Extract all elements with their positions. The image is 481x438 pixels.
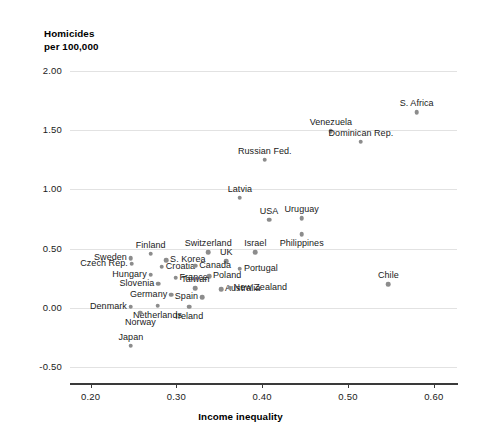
x-tick-label: 0.60: [414, 391, 454, 402]
y-tick-label: 0.00: [18, 302, 62, 313]
data-point-label: Poland: [213, 270, 241, 280]
data-point[interactable]: [267, 217, 272, 222]
data-point[interactable]: [359, 140, 364, 145]
data-point-label: Denmark: [90, 301, 127, 311]
data-point-label: Uruguay: [285, 204, 319, 214]
scatter-chart: Homicides per 100,000 S. AfricaVenezuela…: [0, 0, 481, 438]
data-point[interactable]: [206, 250, 211, 255]
data-point[interactable]: [155, 303, 160, 308]
data-point-label: Finland: [136, 240, 166, 250]
data-point[interactable]: [129, 304, 134, 309]
data-point[interactable]: [227, 285, 232, 290]
plot-area: S. AfricaVenezuelaDominican Rep.Russian …: [70, 35, 457, 379]
data-point[interactable]: [263, 157, 268, 162]
y-tick-label: 1.50: [18, 124, 62, 135]
data-point[interactable]: [299, 232, 304, 237]
data-point-label: Venezuela: [310, 117, 353, 127]
data-point-label: Croatia: [166, 261, 195, 271]
gridline-y: [70, 189, 457, 190]
data-point-label: Russian Fed.: [238, 146, 292, 156]
x-tick-mark: [434, 384, 435, 388]
x-tick-mark: [348, 384, 349, 388]
data-point-label: UK: [220, 247, 233, 257]
data-point-label: Israel: [244, 238, 266, 248]
data-point-label: Latvia: [228, 184, 252, 194]
data-point[interactable]: [219, 287, 224, 292]
x-tick-mark: [91, 384, 92, 388]
x-tick-label: 0.40: [242, 391, 282, 402]
data-point[interactable]: [238, 195, 243, 200]
data-point[interactable]: [169, 293, 174, 298]
x-tick-label: 0.50: [328, 391, 368, 402]
data-point-label: Japan: [119, 332, 144, 342]
data-point-label: New Zealand: [234, 282, 288, 292]
data-point-label: S. Africa: [400, 98, 434, 108]
gridline-y: [70, 130, 457, 131]
data-point-label: Philippines: [280, 238, 324, 248]
data-point[interactable]: [193, 263, 198, 268]
data-point[interactable]: [414, 110, 419, 115]
data-point[interactable]: [299, 216, 304, 221]
y-tick-label: 1.00: [18, 183, 62, 194]
data-point-label: Canada: [199, 260, 231, 270]
data-point[interactable]: [130, 262, 135, 267]
data-point[interactable]: [148, 252, 153, 257]
data-point-label: Spain: [175, 291, 198, 301]
data-point-label: Czech Rep.: [80, 258, 128, 268]
data-point[interactable]: [156, 281, 161, 286]
x-tick-label: 0.30: [156, 391, 196, 402]
data-point-label: Dominican Rep.: [329, 128, 394, 138]
x-axis-title: Income inequality: [0, 411, 481, 422]
x-tick-mark: [262, 384, 263, 388]
data-point-label: USA: [260, 206, 279, 216]
data-point[interactable]: [200, 295, 205, 300]
x-axis-line: [70, 383, 458, 385]
data-point-label: Chile: [378, 270, 399, 280]
y-tick-label: 0.50: [18, 243, 62, 254]
data-point[interactable]: [129, 256, 134, 261]
data-point[interactable]: [187, 304, 192, 309]
data-point-label: Portugal: [244, 263, 278, 273]
y-tick-label: 2.00: [18, 65, 62, 76]
data-point[interactable]: [193, 286, 198, 291]
data-point[interactable]: [386, 282, 391, 287]
x-tick-mark: [176, 384, 177, 388]
data-point-label: Taiwan: [181, 274, 209, 284]
y-tick-label: -0.50: [18, 361, 62, 372]
gridline-y: [70, 249, 457, 250]
gridline-y: [70, 367, 457, 368]
data-point[interactable]: [253, 250, 258, 255]
x-tick-label: 0.20: [71, 391, 111, 402]
data-point[interactable]: [138, 310, 143, 315]
data-point[interactable]: [148, 272, 153, 277]
data-point-label: Ireland: [175, 311, 203, 321]
data-point-label: Germany: [130, 289, 167, 299]
data-point[interactable]: [129, 344, 134, 349]
data-point[interactable]: [160, 265, 165, 270]
gridline-y: [70, 71, 457, 72]
data-point-label: Slovenia: [119, 278, 154, 288]
data-point-label: Norway: [125, 317, 156, 327]
data-point[interactable]: [173, 275, 178, 280]
